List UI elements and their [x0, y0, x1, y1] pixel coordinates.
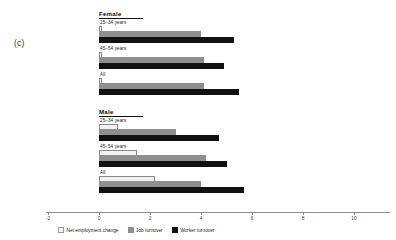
group-label-female-45-54: 45–54 years — [100, 46, 126, 51]
x-axis-tick — [252, 212, 253, 215]
bar-male-25-34-worker-turnover — [99, 135, 219, 141]
x-axis-tick — [201, 212, 202, 215]
group-label-male-45-54: 45–54 years — [100, 144, 126, 149]
bar-female-45-54-worker-turnover — [99, 63, 224, 69]
legend-item-job-turnover: Job turnover — [128, 227, 163, 233]
x-axis-tick — [150, 212, 151, 215]
plot-area: Female 25–34 years 45–54 years All Male … — [0, 0, 396, 240]
legend-swatch-worker-turnover — [172, 227, 178, 233]
x-axis-line — [46, 212, 390, 213]
x-axis-tick-label: 10 — [351, 216, 356, 221]
x-axis-tick — [48, 212, 49, 215]
figure-panel-c: (c) Female 25–34 years 45–54 years All M… — [0, 0, 396, 240]
bar-male-all-worker-turnover — [99, 187, 244, 193]
x-axis-tick-label: 8 — [302, 216, 305, 221]
legend-label-net-employment-change: Net employment change — [67, 228, 119, 233]
x-axis-tick — [354, 212, 355, 215]
x-axis-tick-label: 0 — [98, 216, 101, 221]
legend-swatch-job-turnover — [128, 227, 134, 233]
legend-swatch-net-employment-change — [58, 227, 64, 233]
panel-heading-male: Male — [99, 108, 143, 117]
panel-heading-female: Female — [99, 10, 143, 19]
bar-female-25-34-worker-turnover — [99, 37, 234, 43]
bar-male-45-54-worker-turnover — [99, 161, 227, 167]
group-label-male-25-34: 25–34 years — [100, 118, 126, 123]
group-label-male-all: All — [100, 170, 105, 175]
x-axis-tick — [303, 212, 304, 215]
legend-item-worker-turnover: Worker turnover — [172, 227, 215, 233]
x-axis-tick-label: 6 — [251, 216, 254, 221]
group-label-female-all: All — [100, 72, 105, 77]
legend: Net employment change Job turnover Worke… — [58, 227, 219, 233]
bar-female-all-worker-turnover — [99, 89, 239, 95]
x-axis-tick-label: 4 — [200, 216, 203, 221]
x-axis-tick-label: -2 — [46, 216, 50, 221]
legend-label-worker-turnover: Worker turnover — [180, 228, 214, 233]
x-axis-tick-label: 2 — [149, 216, 152, 221]
group-label-female-25-34: 25–34 years — [100, 20, 126, 25]
legend-item-net-employment-change: Net employment change — [58, 227, 119, 233]
legend-label-job-turnover: Job turnover — [136, 228, 163, 233]
x-axis-tick — [99, 212, 100, 215]
